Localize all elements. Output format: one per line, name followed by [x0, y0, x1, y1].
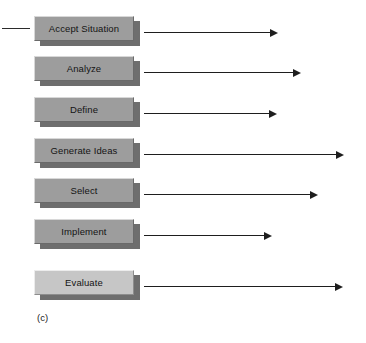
- step-row: Evaluate: [0, 270, 366, 300]
- figure-caption: (c): [37, 312, 48, 323]
- arrow-shaft: [144, 72, 294, 73]
- step-box-implement[interactable]: Implement: [34, 219, 134, 244]
- step-row: Define: [0, 97, 366, 127]
- arrowhead-icon: [264, 232, 272, 240]
- arrow-shaft: [144, 154, 337, 155]
- arrowhead-icon: [335, 283, 343, 291]
- step-label: Define: [70, 105, 98, 115]
- flow-arrow-implement: [144, 230, 272, 242]
- step-label: Generate Ideas: [51, 146, 118, 156]
- step-box-define[interactable]: Define: [34, 97, 134, 122]
- step-box-select[interactable]: Select: [34, 178, 134, 203]
- step-box-accept-situation[interactable]: Accept Situation: [34, 16, 134, 41]
- flow-arrow-evaluate: [144, 281, 343, 293]
- arrow-shaft: [144, 32, 271, 33]
- arrowhead-icon: [336, 151, 344, 159]
- step-label: Accept Situation: [49, 24, 119, 34]
- arrowhead-icon: [270, 29, 278, 37]
- step-label: Analyze: [67, 64, 102, 74]
- arrowhead-icon: [293, 69, 301, 77]
- arrowhead-icon: [269, 110, 277, 118]
- step-row: Analyze: [0, 56, 366, 86]
- arrow-shaft: [144, 286, 336, 287]
- arrow-shaft: [144, 113, 270, 114]
- arrow-shaft: [144, 194, 311, 195]
- step-row: Implement: [0, 219, 366, 249]
- step-row: Generate Ideas: [0, 138, 366, 168]
- step-label: Evaluate: [65, 278, 103, 288]
- step-box-evaluate[interactable]: Evaluate: [34, 270, 134, 295]
- step-row: Select: [0, 178, 366, 208]
- arrow-shaft: [144, 235, 265, 236]
- flow-arrow-select: [144, 189, 318, 201]
- step-label: Select: [70, 186, 97, 196]
- flow-arrow-analyze: [144, 67, 301, 79]
- flow-arrow-define: [144, 108, 277, 120]
- step-box-analyze[interactable]: Analyze: [34, 56, 134, 81]
- step-label: Implement: [61, 227, 106, 237]
- step-row: Accept Situation: [0, 16, 366, 46]
- arrowhead-icon: [310, 191, 318, 199]
- flow-arrow-generate-ideas: [144, 149, 344, 161]
- process-steps-figure: Accept SituationAnalyzeDefineGenerate Id…: [0, 0, 366, 343]
- flow-arrow-accept-situation: [144, 27, 278, 39]
- step-box-generate-ideas[interactable]: Generate Ideas: [34, 138, 134, 163]
